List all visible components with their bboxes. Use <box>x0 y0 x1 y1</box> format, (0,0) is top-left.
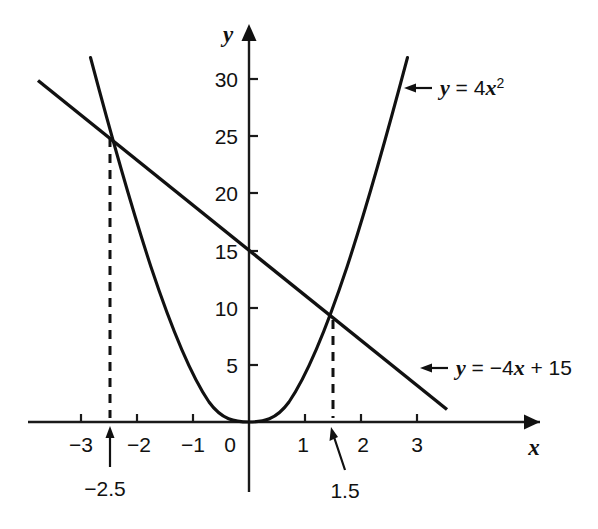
y-tick-label-30: 30 <box>215 68 238 91</box>
x-tick-label-2: 2 <box>357 433 369 456</box>
line-equation-label: y = −4x + 15 <box>453 355 572 380</box>
root-marker-arrow-left <box>106 426 115 467</box>
root-arrow-head-left <box>106 426 115 438</box>
x-axis-label: x <box>527 435 540 460</box>
parabola-callout-arrowhead <box>404 84 416 93</box>
straight-line-negative-4x-plus-15 <box>38 81 447 410</box>
y-axis-arrowhead <box>242 24 257 41</box>
root-arrow-head-right <box>330 427 339 441</box>
x-tick-labels: −3 −2 −1 0 1 2 3 <box>69 433 423 456</box>
line-label-y: y <box>453 355 466 380</box>
y-tick-label-25: 25 <box>215 125 238 148</box>
parabola-label-x: x <box>484 75 496 100</box>
parabola-callout-group: y = 4x2 <box>404 75 504 100</box>
parabola-equation-label: y = 4x2 <box>437 75 504 100</box>
y-tick-marks <box>249 79 258 365</box>
y-tick-label-10: 10 <box>215 297 238 320</box>
line-label-eq: = −4 <box>466 356 514 379</box>
coordinate-plot: −3 −2 −1 0 1 2 3 5 10 15 20 25 30 y x <box>0 0 598 529</box>
x-tick-label-3: 3 <box>411 433 423 456</box>
root-label-1point5: 1.5 <box>330 479 359 502</box>
parabola-label-exponent: 2 <box>496 75 504 91</box>
y-tick-label-20: 20 <box>215 182 238 205</box>
line-callout-group: y = −4x + 15 <box>420 355 572 380</box>
x-tick-label-1: 1 <box>297 433 309 456</box>
root-label-minus-2point5: −2.5 <box>84 477 125 500</box>
line-label-x: x <box>513 355 525 380</box>
graph-figure: −3 −2 −1 0 1 2 3 5 10 15 20 25 30 y x <box>0 0 598 529</box>
y-tick-labels: 5 10 15 20 25 30 <box>215 68 238 377</box>
y-axis-label: y <box>220 22 234 47</box>
x-tick-label--3: −3 <box>69 433 93 456</box>
line-callout-arrowhead <box>420 364 432 373</box>
x-tick-label-0: 0 <box>224 433 236 456</box>
y-tick-label-15: 15 <box>215 240 238 263</box>
root-marker-arrow-right <box>330 427 346 470</box>
parabola-label-eq: = 4 <box>450 76 486 99</box>
x-tick-label--1: −1 <box>181 433 205 456</box>
root-arrow-shaft-right <box>334 437 345 470</box>
x-axis-arrowhead <box>524 415 540 430</box>
x-tick-label--2: −2 <box>127 433 151 456</box>
y-tick-label-5: 5 <box>226 354 238 377</box>
line-label-tail: + 15 <box>525 356 572 379</box>
parabola-label-y: y <box>437 75 450 100</box>
